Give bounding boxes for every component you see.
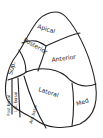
border-lat-med	[72, 83, 74, 126]
label-apical: Apical	[36, 22, 56, 35]
label-lateral: Lateral	[38, 85, 60, 98]
border-basal-2	[18, 78, 20, 117]
label-posterior-basal: Post basal	[6, 95, 11, 116]
label-superior: Sup.	[6, 60, 17, 75]
label-medial: Med	[75, 96, 89, 107]
label-anterior: Anterior	[51, 53, 76, 63]
lung-segment-diagram: Apical Posterior Anterior Sup. Lateral M…	[0, 0, 103, 138]
label-lateral-basal: Lat. basal	[13, 92, 18, 112]
border-sup-top	[19, 50, 26, 72]
label-anterior-basal: Ant basal	[28, 104, 38, 124]
fissure-upper	[26, 69, 96, 86]
border-basal-3	[24, 76, 46, 128]
